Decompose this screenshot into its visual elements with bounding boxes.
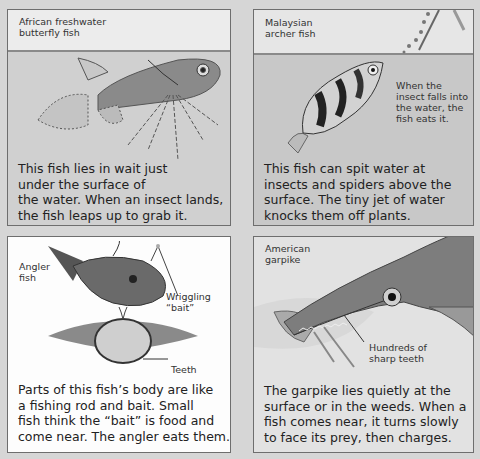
panel-angler-fish: Angler fish Wriggling “bait” Teeth Parts… xyxy=(7,236,231,453)
archer-fish-title: Malaysian archer fish xyxy=(265,17,316,39)
body-line: fish comes near, it turns slowly xyxy=(264,414,466,430)
body-line: come near. The angler eats them. xyxy=(18,429,230,445)
title-line: butterfly fish xyxy=(19,27,106,38)
archer-fish-illustration xyxy=(278,58,388,153)
body-line: fish think the “bait” is food and xyxy=(18,413,230,429)
body-line: knocks them off plants. xyxy=(264,208,451,224)
body-line: insects and spiders above the xyxy=(264,177,451,193)
garpike-teeth-callout: Hundreds of sharp teeth xyxy=(369,342,427,364)
archer-fish-description: This fish can spit water at insects and … xyxy=(264,161,451,223)
bait-callout: Wriggling “bait” xyxy=(166,291,211,313)
butterfly-fish-title: African freshwater butterfly fish xyxy=(19,16,106,38)
body-line: the fish leaps up to grab it. xyxy=(18,208,223,224)
butterfly-fish-description: This fish lies in wait just under the su… xyxy=(18,161,223,223)
panel-butterfly-fish: African freshwater butterfly fish This f… xyxy=(7,9,231,226)
water-jet-illustration xyxy=(394,10,474,60)
callout-line: “bait” xyxy=(166,302,211,313)
body-line: a fishing rod and bait. Small xyxy=(18,398,230,414)
body-line: This fish lies in wait just xyxy=(18,161,223,177)
title-line: African freshwater xyxy=(19,16,106,27)
garpike-illustration xyxy=(254,236,474,377)
archer-fish-callout: When the insect falls into the water, th… xyxy=(396,80,468,124)
body-line: surface. The tiny jet of water xyxy=(264,192,451,208)
teeth-callout: Teeth xyxy=(171,364,197,375)
panel-archer-fish: Malaysian archer fish When the insect fa… xyxy=(253,9,474,226)
callout-line: Wriggling xyxy=(166,291,211,302)
callout-line: the water, the xyxy=(396,102,468,113)
body-line: This fish can spit water at xyxy=(264,161,451,177)
callout-line: insect falls into xyxy=(396,91,468,102)
title-line: archer fish xyxy=(265,28,316,39)
body-line: under the surface of xyxy=(18,177,223,193)
garpike-description: The garpike lies quietly at the surface … xyxy=(264,383,466,445)
body-line: The garpike lies quietly at the xyxy=(264,383,466,399)
callout-line: Hundreds of xyxy=(369,342,427,353)
angler-fish-description: Parts of this fish’s body are like a fis… xyxy=(18,382,230,444)
body-line: the water. When an insect lands, xyxy=(18,192,223,208)
callout-line: sharp teeth xyxy=(369,353,427,364)
panel-garpike: American garpike Hundreds of sharp teeth… xyxy=(253,236,474,453)
title-line: Malaysian xyxy=(265,17,316,28)
body-line: Parts of this fish’s body are like xyxy=(18,382,230,398)
butterfly-fish-illustration xyxy=(28,50,228,160)
callout-line: fish eats it. xyxy=(396,113,468,124)
body-line: to face its prey, then charges. xyxy=(264,430,466,446)
body-line: surface or in the weeds. When a xyxy=(264,399,466,415)
callout-line: When the xyxy=(396,80,468,91)
